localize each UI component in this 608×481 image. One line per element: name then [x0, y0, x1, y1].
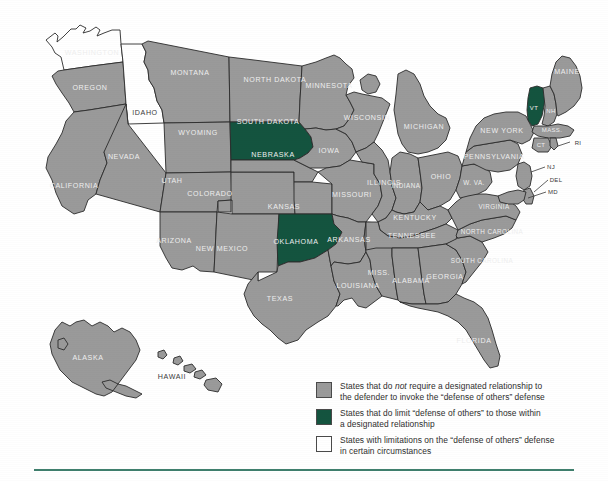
state-label-IA: IOWA — [318, 147, 339, 155]
legend-green-line1: States that do limit “defense of others”… — [340, 408, 541, 418]
state-label-NE: NEBRASKA — [251, 151, 294, 159]
state-label-FL: FLORIDA — [457, 337, 492, 345]
state-label-MO: MISSOURI — [332, 191, 372, 199]
state-label-WA: WASHINGTON — [65, 49, 119, 57]
legend-item-white: States with limitations on the “defense … — [316, 435, 602, 456]
state-label-NM: NEW MEXICO — [196, 245, 249, 253]
state-label-NJ: NJ — [547, 164, 555, 170]
state-label-AK: ALASKA — [72, 354, 103, 362]
state-label-OR: OREGON — [72, 84, 107, 92]
state-label-VA: VIRGINIA — [478, 203, 510, 210]
state-label-VT: VT — [530, 105, 538, 111]
state-label-NH: NH — [546, 108, 555, 114]
state-label-UT: UTAH — [161, 177, 182, 185]
state-label-ID: IDAHO — [132, 109, 157, 117]
state-RI[interactable] — [550, 138, 558, 150]
legend-text-white: States with limitations on the “defense … — [340, 435, 554, 456]
leader-line-nj — [531, 167, 545, 172]
state-label-GA: GEORGIA — [426, 273, 463, 281]
map-figure: WASHINGTON OREGON IDAHO MONTANA WYOMING … — [0, 0, 608, 481]
state-label-OH: OHIO — [431, 173, 452, 181]
legend-gray-emphasis: not — [395, 381, 407, 391]
state-label-ME: MAINE — [554, 68, 579, 76]
legend-gray-line2: the defender to invoke the “defense of o… — [340, 392, 545, 402]
state-label-MT: MONTANA — [170, 69, 209, 77]
state-label-ND: NORTH DAKOTA — [244, 76, 307, 84]
bottom-rule — [34, 469, 574, 471]
legend-swatch-gray-icon — [316, 382, 332, 398]
state-label-MA: MASS. — [542, 127, 562, 133]
state-label-WY: WYOMING — [178, 129, 218, 137]
legend-white-line2: in certain circumstances — [340, 446, 431, 456]
legend: States that do not require a designated … — [316, 381, 602, 463]
state-label-AZ: ARIZONA — [156, 237, 192, 245]
state-label-DE: DEL — [550, 177, 563, 183]
state-label-MD: MD — [548, 189, 558, 195]
state-ND[interactable] — [229, 57, 302, 122]
state-HI[interactable] — [158, 350, 222, 392]
leader-line-ri — [558, 142, 570, 146]
state-label-SC: SOUTH CAROLINA — [451, 257, 514, 264]
state-label-MN: MINNESOTA — [305, 82, 352, 90]
state-FL[interactable] — [400, 294, 500, 368]
state-label-CA: CALIFORNIA — [50, 182, 99, 190]
legend-text-green: States that do limit “defense of others”… — [340, 408, 541, 429]
state-label-IN: INDIANA — [392, 182, 421, 189]
legend-text-gray: States that do not require a designated … — [340, 381, 545, 402]
legend-item-gray: States that do not require a designated … — [316, 381, 602, 402]
state-label-KS: KANSAS — [268, 203, 300, 211]
state-label-CO: COLORADO — [187, 190, 232, 198]
state-label-SD: SOUTH DAKOTA — [237, 118, 300, 126]
us-map-svg: WASHINGTON OREGON IDAHO MONTANA WYOMING … — [0, 0, 608, 400]
legend-white-line1: States with limitations on the “defense … — [340, 435, 554, 445]
state-label-WI: WISCONSIN — [344, 114, 390, 122]
state-label-AR: ARKANSAS — [327, 236, 370, 244]
legend-item-green: States that do limit “defense of others”… — [316, 408, 602, 429]
state-OH[interactable] — [418, 152, 462, 210]
state-label-HI: HAWAII — [158, 373, 186, 381]
state-label-AL: ALABAMA — [392, 277, 430, 285]
state-label-TN: TENNESSEE — [388, 232, 436, 240]
state-label-NV: NEVADA — [108, 153, 140, 161]
state-label-OK: OKLAHOMA — [273, 238, 318, 246]
legend-gray-line1b: require a designated relationship to — [407, 381, 542, 391]
state-label-WV: W. VA. — [463, 179, 484, 186]
state-label-LA: LOUISIANA — [336, 282, 379, 290]
us-map-container: WASHINGTON OREGON IDAHO MONTANA WYOMING … — [0, 0, 608, 400]
legend-green-line2: a designated relationship — [340, 419, 435, 429]
state-NJ[interactable] — [516, 162, 532, 190]
state-label-MS: MISS. — [368, 269, 390, 277]
leader-line-de — [534, 180, 548, 192]
state-label-NY: NEW YORK — [480, 127, 523, 135]
legend-swatch-white-icon — [316, 436, 332, 452]
state-label-NC: NORTH CAROLINA — [461, 228, 524, 235]
state-label-TX: TEXAS — [267, 295, 293, 303]
legend-gray-line1a: States that do — [340, 381, 395, 391]
state-label-MI: MICHIGAN — [404, 123, 444, 131]
legend-swatch-green-icon — [316, 409, 332, 425]
state-label-KY: KENTUCKY — [393, 214, 436, 222]
state-label-CT: CT — [537, 142, 546, 148]
state-label-PA: PENNSYLVANIA — [464, 153, 525, 161]
state-label-RI: RI — [575, 140, 582, 146]
